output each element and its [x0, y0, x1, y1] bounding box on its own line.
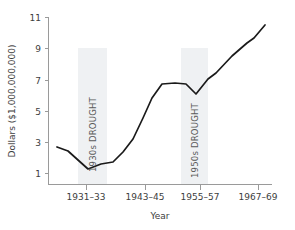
x-tick-label-1955-57: 1955–57 — [181, 192, 220, 202]
band-label-1930s-drought: 1930s DROUGHT — [88, 96, 98, 172]
y-tick-label-1: 1 — [35, 169, 41, 179]
chart-container: 11 9 7 5 3 1 1931–33 1943–45 1955–57 196… — [0, 0, 295, 230]
y-axis-title: Dollars ($1,000,000,000) — [7, 45, 17, 158]
y-tick-label-7: 7 — [35, 76, 41, 86]
x-tick-label-1931-33: 1931–33 — [67, 192, 106, 202]
x-axis-ticks: 1931–33 1943–45 1955–57 1967–69 — [67, 185, 278, 203]
y-tick-label-5: 5 — [35, 107, 41, 117]
y-tick-label-9: 9 — [35, 44, 41, 54]
x-axis-title: Year — [149, 211, 169, 221]
y-tick-label-11: 11 — [30, 13, 41, 23]
band-label-1950s-drought: 1950s DROUGHT — [190, 102, 200, 178]
x-tick-label-1943-45: 1943–45 — [126, 192, 165, 202]
line-chart: 11 9 7 5 3 1 1931–33 1943–45 1955–57 196… — [0, 0, 295, 230]
y-axis-ticks: 11 9 7 5 3 1 — [30, 13, 49, 179]
x-tick-label-1967-69: 1967–69 — [239, 192, 278, 202]
y-tick-label-3: 3 — [35, 138, 41, 148]
